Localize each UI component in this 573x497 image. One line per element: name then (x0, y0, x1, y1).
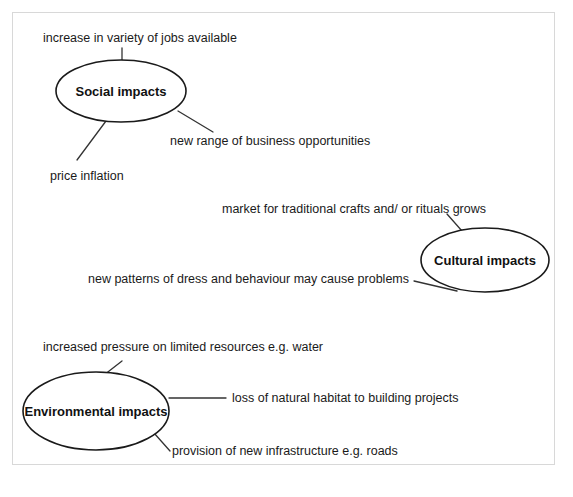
connector-cultural-leaf-1 (447, 214, 462, 231)
leaf-label-environmental-1: increased pressure on limited resources … (43, 340, 323, 354)
node-group-environmental[interactable]: Environmental impacts increased pressure… (23, 340, 459, 458)
leaf-label-social-3: price inflation (50, 169, 124, 183)
leaf-label-cultural-1: market for traditional crafts and/ or ri… (222, 202, 486, 216)
node-group-social[interactable]: Social impacts increase in variety of jo… (43, 31, 370, 183)
mind-map-svg: Social impacts increase in variety of jo… (0, 0, 573, 497)
leaf-label-cultural-2: new patterns of dress and behaviour may … (88, 272, 409, 286)
leaf-label-environmental-3: provision of new infrastructure e.g. roa… (172, 444, 398, 458)
node-label-environmental: Environmental impacts (24, 404, 167, 419)
node-group-cultural[interactable]: Cultural impacts market for traditional … (88, 202, 549, 292)
leaf-label-environmental-2: loss of natural habitat to building proj… (232, 391, 459, 405)
node-label-social: Social impacts (75, 84, 166, 99)
leaf-label-social-2: new range of business opportunities (170, 134, 370, 148)
leaf-label-social-1: increase in variety of jobs available (43, 31, 237, 45)
connector-environmental-leaf-3 (154, 433, 170, 451)
node-label-cultural: Cultural impacts (434, 253, 536, 268)
diagram-canvas: Social impacts increase in variety of jo… (0, 0, 573, 497)
connector-social-leaf-3 (77, 121, 106, 160)
connector-social-leaf-2 (178, 111, 213, 132)
